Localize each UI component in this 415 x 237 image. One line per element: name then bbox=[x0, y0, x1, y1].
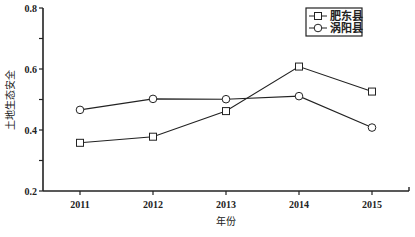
y-tick-label: 0.8 bbox=[25, 3, 38, 14]
series-square bbox=[77, 63, 376, 146]
circle-marker bbox=[368, 124, 376, 132]
circle-marker bbox=[222, 95, 230, 103]
x-tick-label: 2015 bbox=[362, 199, 382, 210]
square-marker bbox=[77, 139, 84, 146]
square-marker bbox=[315, 13, 322, 20]
series-group bbox=[76, 63, 376, 146]
y-tick-label: 0.6 bbox=[25, 64, 38, 75]
square-marker bbox=[150, 133, 157, 140]
circle-marker bbox=[314, 24, 322, 32]
line-chart: 0.20.40.60.820112012201320142015年份土地生态安全… bbox=[0, 0, 415, 237]
legend-label: 涡阳县 bbox=[330, 21, 363, 34]
y-tick-label: 0.4 bbox=[25, 125, 38, 136]
legend-label: 肥东县 bbox=[330, 9, 363, 22]
square-marker bbox=[296, 63, 303, 70]
circle-marker bbox=[149, 95, 157, 103]
x-tick-label: 2011 bbox=[70, 199, 89, 210]
x-axis-title: 年份 bbox=[216, 215, 236, 227]
x-tick-label: 2013 bbox=[216, 199, 236, 210]
circle-marker bbox=[76, 106, 84, 114]
y-axis-title: 土地生态安全 bbox=[4, 70, 16, 130]
x-tick-label: 2014 bbox=[289, 199, 309, 210]
legend: 肥东县涡阳县 bbox=[306, 8, 363, 36]
y-tick-label: 0.2 bbox=[25, 186, 38, 197]
circle-marker bbox=[295, 92, 303, 100]
square-marker bbox=[369, 88, 376, 95]
x-tick-label: 2012 bbox=[143, 199, 163, 210]
square-marker bbox=[223, 108, 230, 115]
